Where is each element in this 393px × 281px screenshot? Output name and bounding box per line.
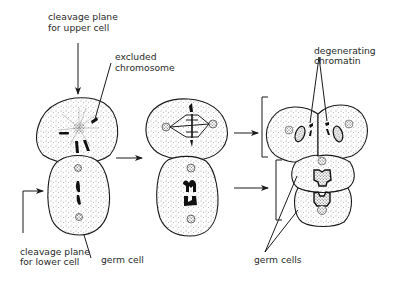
label-excluded-1: excluded <box>115 51 157 62</box>
centrosome <box>345 120 353 128</box>
bracket-lower <box>276 160 282 220</box>
chromatin-residue <box>318 206 327 215</box>
centrosome <box>75 165 82 172</box>
centrosome <box>187 215 195 223</box>
label-cleavage-upper-2: for upper cell <box>48 22 109 33</box>
diagram-canvas: cleavage plane for upper cell excluded c… <box>0 0 393 281</box>
middle-upper-cell <box>146 99 228 160</box>
centrosome <box>318 157 326 165</box>
germ-cells-pointer-lower <box>265 210 298 252</box>
label-excluded-2: chromosome <box>115 62 175 73</box>
centrosome <box>285 126 293 134</box>
middle-embryo <box>146 99 228 236</box>
cleavage-lower-arrow <box>23 191 43 233</box>
germ-cells-pointer-middle <box>265 176 297 252</box>
label-germ-cells: germ cells <box>254 254 302 265</box>
chromosome <box>59 132 69 135</box>
label-cleavage-lower-2: for lower cell <box>20 256 79 267</box>
label-degenerating-2: chromatin <box>314 55 361 66</box>
centrosome <box>187 164 195 172</box>
label-germ-cell: germ cell <box>101 254 144 265</box>
right-embryo <box>266 105 367 227</box>
left-embryo <box>37 98 118 235</box>
label-cleavage-upper-1: cleavage plane <box>48 11 118 22</box>
centrosome <box>76 214 83 221</box>
